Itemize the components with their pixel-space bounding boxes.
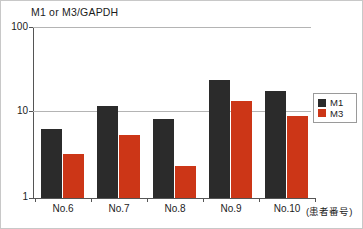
x-axis-tick-mark (203, 198, 204, 202)
bar-m1 (153, 119, 174, 198)
x-axis-tick-mark (35, 198, 36, 202)
bar-m1 (265, 91, 286, 198)
chart-legend: M1 M3 (313, 93, 357, 123)
chart-title: M1 or M3/GAPDH (31, 6, 118, 18)
bar-m1 (41, 129, 62, 199)
legend-item-m1: M1 (318, 98, 352, 108)
x-axis-tick-label: No.8 (147, 203, 203, 214)
bar-m1 (97, 106, 118, 198)
bar-group (95, 27, 143, 198)
y-axis-tick-label: 1 (22, 191, 28, 202)
bar-m3 (63, 154, 84, 198)
x-axis-tick-mark (91, 198, 92, 202)
x-axis-tick-mark (147, 198, 148, 202)
bar-m3 (119, 135, 140, 198)
bar-m3 (175, 166, 196, 199)
legend-swatch-m3-icon (318, 109, 326, 117)
x-axis-tick-label: No.7 (91, 203, 147, 214)
legend-item-m3: M3 (318, 109, 352, 119)
y-axis-tick-label: 100 (11, 21, 28, 32)
x-axis-caption: (患者番号) (306, 204, 352, 218)
x-axis-tick-mark (315, 198, 316, 202)
bar-m1 (209, 80, 230, 198)
legend-swatch-m1-icon (318, 99, 326, 107)
bar-group (151, 27, 199, 198)
bar-m3 (231, 101, 252, 198)
bar-group (39, 27, 87, 198)
x-axis-tick-label: No.6 (35, 203, 91, 214)
bar-group (263, 27, 311, 198)
legend-label-m3: M3 (330, 109, 343, 119)
legend-label-m1: M1 (330, 98, 343, 108)
x-axis-tick-label: No.9 (203, 203, 259, 214)
x-axis-tick-mark (259, 198, 260, 202)
x-axis-line (33, 198, 316, 199)
y-axis-tick-label: 10 (17, 105, 28, 116)
bar-group (207, 27, 255, 198)
chart-figure: M1 or M3/GAPDH 100 10 1 (0, 0, 363, 229)
bar-m3 (287, 116, 308, 198)
plot-area (33, 27, 311, 198)
